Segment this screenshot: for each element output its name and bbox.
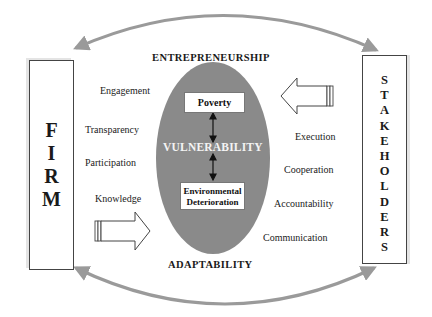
firm-label: F I R M	[30, 119, 73, 211]
environmental-text: Environmental	[181, 186, 244, 197]
stakeholder-attribute-communication: Communication	[263, 232, 327, 243]
stakeholders-letter: K	[380, 119, 390, 134]
entrepreneurship-heading: ENTREPRENEURSHIP	[152, 52, 270, 63]
stakeholders-box: S T A K E H O L D E R S	[362, 55, 407, 264]
deterioration-text: Deterioration	[181, 197, 244, 208]
adaptability-heading: ADAPTABILITY	[168, 259, 253, 270]
stakeholders-letter: L	[380, 179, 388, 194]
top-double-arrow	[76, 15, 376, 50]
vulnerability-label: VULNERABILITY	[163, 141, 263, 153]
firm-letter: I	[48, 142, 56, 165]
environmental-deterioration-box: Environmental Deterioration	[180, 182, 245, 210]
stakeholder-attribute-cooperation: Cooperation	[284, 164, 333, 175]
firm-box: F I R M	[29, 60, 74, 270]
stakeholders-letter: S	[381, 73, 388, 88]
firm-attribute-engagement: Engagement	[100, 85, 150, 96]
stakeholders-letter: S	[381, 240, 388, 255]
firm-attribute-participation: Participation	[85, 157, 136, 168]
firm-letter: M	[42, 188, 61, 211]
firm-letter: F	[45, 119, 57, 142]
firm-attribute-transparency: Transparency	[85, 124, 139, 135]
stakeholders-letter: R	[380, 225, 389, 240]
stakeholders-letter: H	[380, 149, 390, 164]
left-block-arrow-icon	[281, 78, 333, 114]
firm-letter: R	[44, 165, 58, 188]
poverty-box: Poverty	[184, 92, 245, 113]
stakeholders-letter: T	[380, 88, 388, 103]
bottom-double-arrow	[76, 268, 374, 304]
stakeholder-attribute-execution: Execution	[295, 131, 336, 142]
stakeholders-letter: E	[380, 210, 388, 225]
stakeholders-letter: E	[380, 134, 388, 149]
right-block-arrow-icon	[95, 212, 150, 250]
stakeholders-letter: D	[380, 195, 389, 210]
stakeholders-label: S T A K E H O L D E R S	[363, 73, 406, 255]
stakeholders-letter: A	[380, 103, 389, 118]
stakeholders-letter: O	[380, 164, 390, 179]
firm-attribute-knowledge: Knowledge	[95, 193, 141, 204]
stakeholder-attribute-accountability: Accountability	[274, 198, 333, 209]
